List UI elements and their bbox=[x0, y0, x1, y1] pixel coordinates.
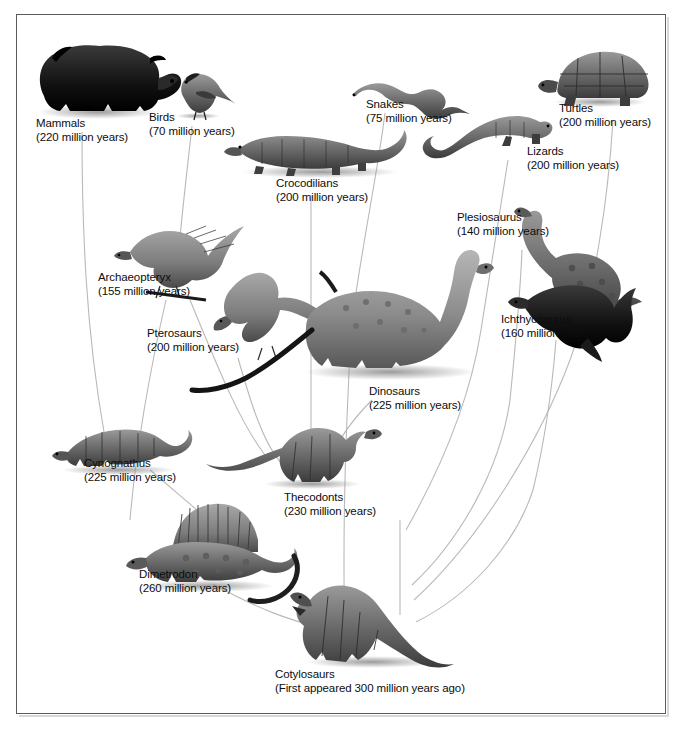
label-lizards: Lizards (200 million years) bbox=[527, 145, 619, 172]
label-cotylosaurs-age: (First appeared 300 million years ago) bbox=[275, 682, 465, 696]
label-cotylosaurs: Cotylosaurs (First appeared 300 million … bbox=[275, 668, 465, 695]
label-thecodonts-age: (230 million years) bbox=[284, 505, 376, 519]
label-dinosaurs: Dinosaurs (225 million years) bbox=[369, 385, 461, 412]
label-dimetrodon-name: Dimetrodon bbox=[139, 568, 231, 582]
label-archaeopteryx-age: (155 million years) bbox=[98, 285, 190, 299]
label-plesiosaurus: Plesiosaurus (140 million years) bbox=[457, 211, 549, 238]
label-ichthyosaurus-age: (160 million years) bbox=[501, 327, 593, 341]
label-lizards-name: Lizards bbox=[527, 145, 619, 159]
label-turtles-age: (200 million years) bbox=[559, 116, 651, 130]
label-dimetrodon-age: (260 million years) bbox=[139, 582, 231, 596]
label-cynognathus-name: Cynognathus bbox=[84, 457, 176, 471]
label-pterosaurs: Pterosaurs (200 million years) bbox=[147, 327, 239, 354]
label-cotylosaurs-name: Cotylosaurs bbox=[275, 668, 465, 682]
label-dimetrodon: Dimetrodon (260 million years) bbox=[139, 568, 231, 595]
label-ichthyosaurus-name: Ichthyosaurus bbox=[501, 313, 593, 327]
label-cynognathus-age: (225 million years) bbox=[84, 471, 176, 485]
label-turtles: Turtles (200 million years) bbox=[559, 102, 651, 129]
label-thecodonts: Thecodonts (230 million years) bbox=[284, 491, 376, 518]
label-cynognathus: Cynognathus (225 million years) bbox=[84, 457, 176, 484]
label-mammals: Mammals (220 million years) bbox=[36, 117, 128, 144]
label-birds-name: Birds bbox=[149, 111, 235, 125]
label-pterosaurs-name: Pterosaurs bbox=[147, 327, 239, 341]
label-turtles-name: Turtles bbox=[559, 102, 651, 116]
label-mammals-name: Mammals bbox=[36, 117, 128, 131]
label-birds-age: (70 million years) bbox=[149, 125, 235, 139]
label-ichthyosaurus: Ichthyosaurus (160 million years) bbox=[501, 313, 593, 340]
label-mammals-age: (220 million years) bbox=[36, 131, 128, 145]
label-crocodilians-name: Crocodilians bbox=[276, 177, 368, 191]
figure-page: Mammals (220 million years) Birds (70 mi… bbox=[0, 0, 679, 743]
label-snakes-age: (75 million years) bbox=[366, 112, 452, 126]
label-pterosaurs-age: (200 million years) bbox=[147, 341, 239, 355]
label-snakes-name: Snakes bbox=[366, 98, 452, 112]
label-plesiosaurus-age: (140 million years) bbox=[457, 225, 549, 239]
label-archaeopteryx: Archaeopteryx (155 million years) bbox=[98, 271, 190, 298]
label-plesiosaurus-name: Plesiosaurus bbox=[457, 211, 549, 225]
label-thecodonts-name: Thecodonts bbox=[284, 491, 376, 505]
label-dinosaurs-name: Dinosaurs bbox=[369, 385, 461, 399]
label-archaeopteryx-name: Archaeopteryx bbox=[98, 271, 190, 285]
label-dinosaurs-age: (225 million years) bbox=[369, 399, 461, 413]
label-crocodilians-age: (200 million years) bbox=[276, 191, 368, 205]
label-crocodilians: Crocodilians (200 million years) bbox=[276, 177, 368, 204]
label-lizards-age: (200 million years) bbox=[527, 159, 619, 173]
label-birds: Birds (70 million years) bbox=[149, 111, 235, 138]
label-snakes: Snakes (75 million years) bbox=[366, 98, 452, 125]
